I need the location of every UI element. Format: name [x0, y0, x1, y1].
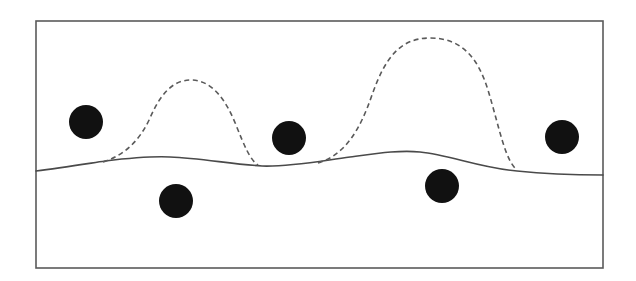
- data-point-1: [69, 105, 103, 139]
- data-point-3: [272, 121, 306, 155]
- data-point-4: [425, 169, 459, 203]
- boundary-diagram: [0, 0, 636, 281]
- data-point-2: [159, 184, 193, 218]
- data-point-5: [545, 120, 579, 154]
- background: [0, 0, 636, 281]
